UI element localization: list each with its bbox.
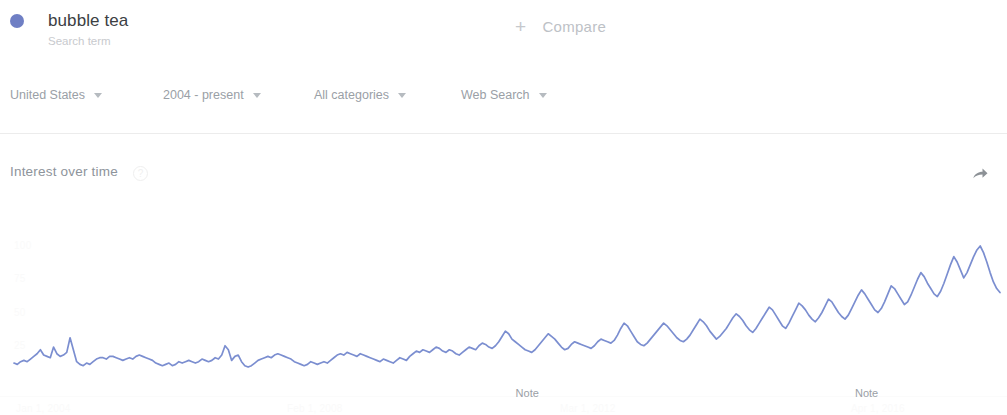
search-term-title: bubble tea xyxy=(48,10,128,31)
filter-label: Web Search xyxy=(461,88,530,102)
filter-dropdown-1[interactable]: 2004 - present xyxy=(163,88,261,102)
chevron-down-icon xyxy=(94,93,102,98)
interest-over-time-card: Interest over time ? 100755025Jan 1, 200… xyxy=(0,146,1007,415)
x-axis-tick: Jan 1, 2004 xyxy=(16,403,70,414)
compare-button-label: Compare xyxy=(542,18,606,35)
filter-dropdown-2[interactable]: All categories xyxy=(314,88,406,102)
filter-label: 2004 - present xyxy=(163,88,244,102)
chevron-down-icon xyxy=(539,93,547,98)
trend-line xyxy=(14,246,1000,367)
search-term-header: bubble tea Search term + Compare xyxy=(0,0,1007,70)
filter-bar: United States2004 - presentAll categorie… xyxy=(0,88,1007,122)
filter-dropdown-3[interactable]: Web Search xyxy=(461,88,547,102)
page-title: Interest over time xyxy=(10,164,118,179)
filter-label: All categories xyxy=(314,88,389,102)
chart-note-annotation[interactable]: Note xyxy=(855,387,878,399)
chart-plot xyxy=(0,204,1007,415)
series-color-dot xyxy=(10,14,24,28)
header-divider xyxy=(0,133,1007,134)
y-axis-tick: 50 xyxy=(14,307,26,318)
trends-line-chart[interactable]: 100755025Jan 1, 2004Feb 1, 2008Mar 1, 20… xyxy=(0,204,1007,415)
plus-icon: + xyxy=(515,17,526,36)
y-axis-tick: 75 xyxy=(14,273,26,284)
share-icon[interactable] xyxy=(970,164,990,184)
x-axis-tick: Apr 1, 2016 xyxy=(851,403,905,414)
filter-dropdown-0[interactable]: United States xyxy=(10,88,102,102)
y-axis-tick: 100 xyxy=(14,240,32,251)
help-icon[interactable]: ? xyxy=(133,166,148,181)
search-term-subtitle: Search term xyxy=(48,33,128,49)
search-term-block[interactable]: bubble tea Search term xyxy=(10,10,128,49)
chart-note-annotation[interactable]: Note xyxy=(516,387,539,399)
chevron-down-icon xyxy=(398,93,406,98)
card-header: Interest over time ? xyxy=(0,146,1007,204)
chevron-down-icon xyxy=(253,93,261,98)
compare-button[interactable]: + Compare xyxy=(515,17,606,36)
x-axis-tick: Feb 1, 2008 xyxy=(287,403,343,414)
y-axis-tick: 25 xyxy=(14,340,26,351)
filter-label: United States xyxy=(10,88,85,102)
x-axis-tick: Mar 1, 2012 xyxy=(560,403,616,414)
